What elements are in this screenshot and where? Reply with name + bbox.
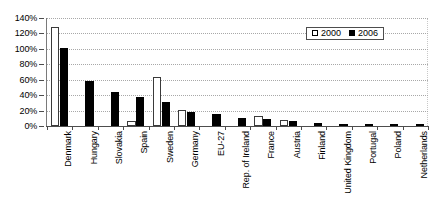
- x-axis-label: Austria: [292, 131, 302, 158]
- y-tick-mark: [39, 111, 44, 112]
- x-axis-label: Netherlands: [419, 131, 429, 178]
- x-tick-mark: [428, 126, 429, 130]
- x-axis-label: France: [266, 131, 276, 158]
- x-tick-mark: [250, 126, 251, 130]
- y-axis: 140%120%100%80%60%40%20%0%: [0, 0, 46, 223]
- bar-group: [250, 18, 275, 126]
- x-tick-mark: [326, 126, 327, 130]
- x-axis-label: Denmark: [63, 131, 73, 167]
- x-axis-label: Slovakia: [114, 131, 124, 164]
- y-tick-mark: [39, 95, 44, 96]
- bar-group: [47, 18, 72, 126]
- bar-chart: 140%120%100%80%60%40%20%0% DenmarkHungar…: [0, 0, 439, 223]
- chart-legend: 20002006: [306, 27, 384, 40]
- x-tick-mark: [225, 126, 226, 130]
- y-tick-label: 60%: [20, 75, 37, 85]
- bar-2000-france: [254, 116, 262, 126]
- x-tick-mark: [174, 126, 175, 130]
- x-axis-label: EU-27: [216, 131, 226, 156]
- bar-2000-germany: [178, 110, 186, 126]
- x-axis-label: Portugal: [368, 131, 378, 164]
- x-tick-mark: [403, 126, 404, 130]
- x-tick-mark: [47, 126, 48, 130]
- x-axis-label: Sweden: [165, 131, 175, 163]
- bar-group: [199, 18, 224, 126]
- bar-2006-germany: [187, 112, 195, 126]
- x-tick-mark: [301, 126, 302, 130]
- y-tick-mark: [39, 49, 44, 50]
- bar-group: [123, 18, 148, 126]
- legend-entry-2006[interactable]: 2006: [349, 29, 378, 38]
- legend-entry-2000[interactable]: 2000: [312, 29, 341, 38]
- x-tick-mark: [276, 126, 277, 130]
- y-tick-label: 20%: [20, 106, 37, 116]
- x-tick-mark: [377, 126, 378, 130]
- bar-group: [72, 18, 97, 126]
- y-tick-mark: [39, 80, 44, 81]
- y-tick-label: 80%: [20, 59, 37, 69]
- legend-label: 2000: [321, 29, 341, 38]
- bar-group: [98, 18, 123, 126]
- x-axis-label: Spain: [139, 131, 149, 154]
- x-axis-label: United Kingdom: [343, 131, 353, 194]
- filled-square-icon: [349, 30, 355, 36]
- x-axis-label: Rep. of Ireland: [241, 131, 251, 189]
- x-axis-label: Hungary: [89, 131, 99, 164]
- y-tick-mark: [39, 18, 44, 19]
- bar-group: [276, 18, 301, 126]
- bar-2006-hungary: [85, 81, 93, 126]
- y-tick-label: 100%: [15, 44, 37, 54]
- x-axis-label: Finland: [317, 131, 327, 160]
- x-tick-mark: [352, 126, 353, 130]
- y-tick-label: 140%: [15, 13, 37, 23]
- x-tick-mark: [98, 126, 99, 130]
- bar-2000-sweden: [153, 77, 161, 126]
- bar-group: [149, 18, 174, 126]
- bar-group: [174, 18, 199, 126]
- bar-2006-slovakia: [111, 92, 119, 126]
- y-tick-label: 120%: [15, 28, 37, 38]
- bar-2006-eu-27: [212, 114, 220, 126]
- x-axis-label: Germany: [190, 131, 200, 167]
- bar-2006-france: [263, 119, 271, 126]
- x-tick-mark: [149, 126, 150, 130]
- bar-2000-denmark: [51, 27, 59, 126]
- x-axis-ticks: [47, 126, 428, 130]
- x-axis-labels: DenmarkHungarySlovakiaSpainSwedenGermany…: [47, 131, 428, 223]
- x-tick-mark: [199, 126, 200, 130]
- bar-group: [403, 18, 428, 126]
- y-tick-mark: [39, 64, 44, 65]
- y-tick-mark: [39, 33, 44, 34]
- y-tick-mark: [39, 126, 44, 127]
- bar-group: [225, 18, 250, 126]
- bar-2006-rep-of-ireland: [238, 118, 246, 126]
- x-axis-label: Poland: [393, 131, 403, 158]
- x-tick-mark: [72, 126, 73, 130]
- bar-2006-sweden: [162, 102, 170, 126]
- legend-label: 2006: [358, 29, 378, 38]
- y-tick-label: 0%: [24, 121, 37, 131]
- open-square-icon: [312, 30, 318, 36]
- y-tick-label: 40%: [20, 90, 37, 100]
- x-tick-mark: [123, 126, 124, 130]
- bar-2006-denmark: [60, 48, 68, 126]
- bar-2006-spain: [136, 97, 144, 126]
